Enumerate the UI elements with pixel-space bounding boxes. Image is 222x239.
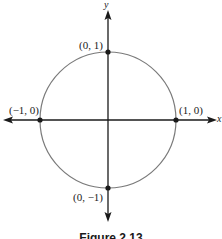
point-left — [37, 117, 42, 122]
point-label-top: (0, 1) — [79, 40, 103, 51]
point-right — [173, 117, 178, 122]
point-label-bottom: (0, −1) — [73, 192, 103, 203]
figure-caption: Figure 2.13 — [0, 231, 222, 239]
unit-circle-figure: y x (0, 1) (−1, 0) (1, 0) (0, −1) Figure… — [0, 0, 222, 239]
point-bottom — [105, 185, 110, 190]
point-top — [105, 49, 110, 54]
x-axis-label: x — [217, 114, 221, 124]
point-label-left: (−1, 0) — [9, 105, 39, 116]
unit-circle-diagram — [0, 0, 222, 239]
point-label-right: (1, 0) — [179, 105, 203, 116]
y-axis-label: y — [104, 0, 108, 10]
